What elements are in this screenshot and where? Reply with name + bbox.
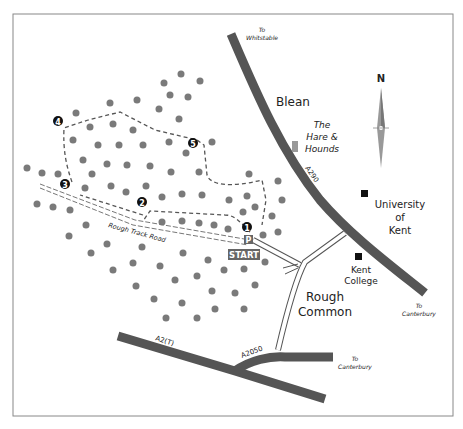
map-border: [13, 14, 453, 416]
road-a2050: [235, 357, 333, 371]
waypoint-5: 5: [188, 138, 198, 149]
svg-text:Blean: Blean: [276, 95, 310, 109]
svg-text:Canterbury: Canterbury: [402, 310, 436, 318]
road-a290: [231, 34, 425, 293]
svg-text:Kent: Kent: [389, 225, 412, 236]
svg-text:Rough Track Road: Rough Track Road: [107, 221, 167, 244]
svg-text:Rough: Rough: [306, 290, 344, 304]
walk-map: 1 2 3 4 5 P START N To Whitstable Blean …: [0, 0, 463, 429]
woodland: [24, 71, 286, 322]
svg-text:3: 3: [62, 181, 68, 190]
svg-text:N: N: [377, 73, 385, 84]
road-a2t: [118, 336, 325, 399]
college-icon: [355, 253, 362, 260]
svg-text:5: 5: [190, 140, 196, 149]
svg-text:Canterbury: Canterbury: [338, 363, 372, 371]
svg-text:Hounds: Hounds: [305, 144, 339, 154]
pub-icon: [292, 141, 298, 152]
svg-text:2: 2: [139, 199, 145, 208]
svg-text:Whitstable: Whitstable: [246, 34, 278, 41]
svg-text:To: To: [259, 26, 266, 33]
waypoint-4: 4: [53, 116, 63, 127]
svg-text:4: 4: [55, 118, 61, 127]
svg-text:Common: Common: [298, 305, 352, 319]
north-arrow-icon: [373, 88, 389, 168]
svg-text:To: To: [352, 355, 359, 362]
svg-text:To: To: [416, 302, 423, 309]
svg-text:Hare &: Hare &: [306, 132, 337, 142]
svg-text:P: P: [246, 236, 252, 245]
svg-text:Kent: Kent: [351, 265, 372, 275]
svg-text:1: 1: [244, 224, 250, 233]
waypoint-2: 2: [137, 197, 147, 208]
svg-text:College: College: [344, 276, 378, 286]
svg-text:START: START: [229, 250, 259, 260]
waypoint-3: 3: [60, 179, 70, 190]
svg-text:of: of: [395, 212, 405, 223]
university-icon: [361, 190, 368, 197]
svg-text:University: University: [375, 199, 426, 210]
waypoint-1: 1: [242, 222, 252, 233]
svg-text:The: The: [314, 120, 331, 130]
